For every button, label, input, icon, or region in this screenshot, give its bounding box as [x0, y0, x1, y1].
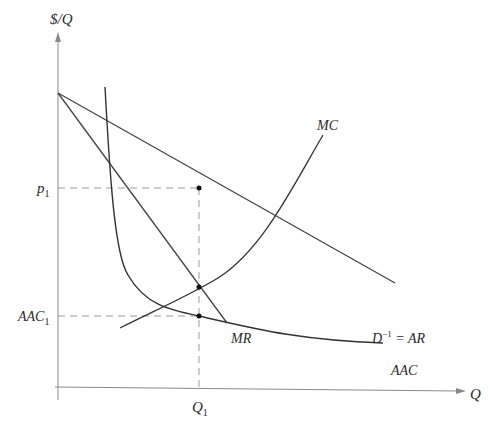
y-axis-arrow-icon — [55, 32, 61, 42]
p1-point — [197, 186, 202, 191]
ar-label: D−1 = AR — [371, 329, 425, 346]
aac1-label: AAC1 — [17, 309, 49, 327]
x-axis-arrow-icon — [456, 388, 466, 394]
mr-curve — [58, 93, 227, 323]
reference-lines — [58, 188, 199, 392]
aac1-point — [197, 314, 202, 319]
x-axis — [55, 387, 458, 391]
mr-mc-intersection-point — [197, 285, 202, 290]
y-axis-label: $/Q — [50, 11, 73, 27]
aac-label: AAC — [390, 363, 418, 378]
q1-label: Q1 — [192, 399, 208, 418]
p1-label: p1 — [36, 180, 50, 199]
mc-label: MC — [316, 118, 339, 133]
aac-curve — [105, 87, 383, 343]
x-axis-label: Q — [470, 386, 481, 402]
mr-label: MR — [230, 331, 252, 346]
monopoly-diagram: $/Q Q p1 AAC1 Q1 MC MR D−1 = AR AAC — [0, 0, 488, 425]
